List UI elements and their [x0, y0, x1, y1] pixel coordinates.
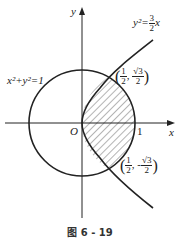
origin-label: O — [70, 126, 78, 137]
parabola-equation-label: y²=32x — [133, 14, 160, 33]
x-axis-label: x — [169, 127, 174, 138]
parabola-lhs: y²= — [133, 16, 149, 28]
tick-1-label: 1 — [137, 126, 143, 137]
y-axis-label: y — [71, 6, 76, 17]
diagram-canvas — [0, 0, 180, 239]
circle-equation-label: x²+y²=1 — [7, 75, 44, 86]
figure-caption: 图 6 - 19 — [0, 224, 180, 239]
y-axis-arrow-icon — [79, 7, 85, 15]
intersection-point-upper: (12, √32) — [115, 67, 149, 86]
intersection-point-lower: (12, -√32) — [120, 156, 158, 175]
